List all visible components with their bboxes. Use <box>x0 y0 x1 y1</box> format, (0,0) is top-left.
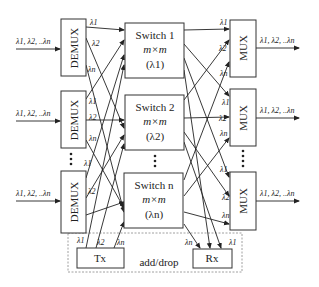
svg-text:m×m: m×m <box>143 43 166 55</box>
svg-text:λn: λn <box>116 238 124 247</box>
tx-box: Tx <box>77 248 124 268</box>
input-label-1: λ1, λ2, ..λn <box>15 37 50 46</box>
svg-text:λ1: λ1 <box>76 236 84 245</box>
input-label-2: λ1, λ2, ..λn <box>15 109 50 118</box>
svg-text:λn: λn <box>221 211 229 220</box>
svg-text:λ1: λ1 <box>89 18 97 27</box>
mux-3: MUX <box>230 172 256 230</box>
svg-text:DEMUX: DEMUX <box>68 100 80 140</box>
svg-text:λ2: λ2 <box>91 39 99 48</box>
svg-text:λ1: λ1 <box>228 238 236 247</box>
switch-2: Switch 2 m×m (λ2) <box>125 95 184 150</box>
svg-text:Switch 1: Switch 1 <box>136 29 175 41</box>
svg-text:Switch n: Switch n <box>135 179 174 191</box>
svg-text:λn: λn <box>184 238 192 247</box>
switch-1: Switch 1 m×m (λ1) <box>125 23 184 78</box>
svg-text:Switch 2: Switch 2 <box>136 101 175 113</box>
svg-text:λn: λn <box>87 65 95 74</box>
svg-text:Tx: Tx <box>94 252 107 264</box>
mux-1: MUX <box>230 20 256 77</box>
demux-3: DEMUX <box>61 171 86 233</box>
svg-text:MUX: MUX <box>237 105 249 131</box>
output-label-2: λ1, λ2, ..λn <box>259 106 294 115</box>
svg-text:DEMUX: DEMUX <box>68 182 80 222</box>
svg-text:λ2: λ2 <box>218 44 226 53</box>
svg-text:(λn): (λn) <box>145 208 163 221</box>
svg-text:λn: λn <box>88 134 96 143</box>
svg-text:λ2: λ2 <box>218 114 226 123</box>
oadm-diagram: λ1, λ2, ..λn λ1, λ2, ..λn λ1, λ2, ..λn λ… <box>0 0 319 287</box>
add-drop-label: add/drop <box>139 256 179 268</box>
svg-text:λ1: λ1 <box>83 159 91 168</box>
svg-text:MUX: MUX <box>237 35 249 61</box>
input-arrows <box>16 49 60 201</box>
output-arrows <box>256 48 299 201</box>
svg-text:λn: λn <box>219 129 227 138</box>
mux-2: MUX <box>230 89 256 146</box>
svg-text:λ1: λ1 <box>219 18 227 27</box>
switch-n: Switch n m×m (λn) <box>124 173 183 228</box>
input-label-3: λ1, λ2, ..λn <box>15 189 50 198</box>
svg-text:Rx: Rx <box>206 252 219 264</box>
svg-text:λ2: λ2 <box>87 187 95 196</box>
svg-text:m×m: m×m <box>142 193 165 205</box>
add-drop-port-labels: λ1 λ2 λn λn λ1 <box>76 236 236 247</box>
demux-2: DEMUX <box>61 91 86 148</box>
svg-text:λ1: λ1 <box>88 97 96 106</box>
svg-text:(λ2): (λ2) <box>146 130 164 143</box>
svg-text:λ2: λ2 <box>221 193 229 202</box>
svg-text:MUX: MUX <box>237 188 249 214</box>
demux-1: DEMUX <box>61 19 86 76</box>
mux-port-labels: λ1 λ2 λn λ1 λ2 λn λ1 λ2 λn <box>218 18 229 220</box>
output-label-3: λ1, λ2, ..λn <box>259 189 294 198</box>
rx-box: Rx <box>193 249 232 268</box>
svg-text:λ2: λ2 <box>88 113 96 122</box>
svg-text:λ2: λ2 <box>96 238 104 247</box>
svg-text:λn: λn <box>219 69 227 78</box>
svg-text:m×m: m×m <box>143 115 166 127</box>
svg-text:DEMUX: DEMUX <box>68 28 80 68</box>
output-label-1: λ1, λ2, ..λn <box>259 36 294 45</box>
svg-text:λ1: λ1 <box>221 98 229 107</box>
svg-text:λ1: λ1 <box>219 165 227 174</box>
svg-text:(λ1): (λ1) <box>146 58 164 71</box>
